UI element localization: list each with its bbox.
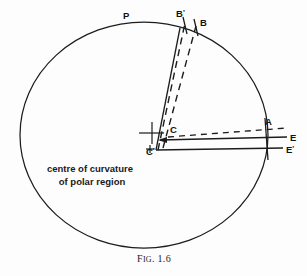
label-c-prime: C' <box>146 146 155 157</box>
tick-at-b <box>194 19 198 36</box>
label-p: P <box>123 10 130 21</box>
diagram-canvas: P B' B A C C' E E' centre of curvature o… <box>0 0 307 276</box>
figure-1-6: P B' B A C C' E E' centre of curvature o… <box>0 0 307 276</box>
blank-outline-circle <box>20 22 268 248</box>
label-e: E <box>290 132 296 143</box>
annotation-line-1: centre of curvature <box>47 163 133 174</box>
solid-line-c-prime-to-e-prime <box>156 148 283 150</box>
label-c: C <box>170 124 177 135</box>
dashed-line-c-to-a <box>168 128 287 137</box>
arrowhead-at-c <box>158 137 167 143</box>
label-b: B <box>200 17 207 28</box>
annotation-line-2: of polar region <box>59 176 126 187</box>
label-e-prime: E' <box>286 144 294 155</box>
figure-caption: FIG. 1.6 <box>137 253 171 264</box>
label-a: A <box>265 116 272 127</box>
